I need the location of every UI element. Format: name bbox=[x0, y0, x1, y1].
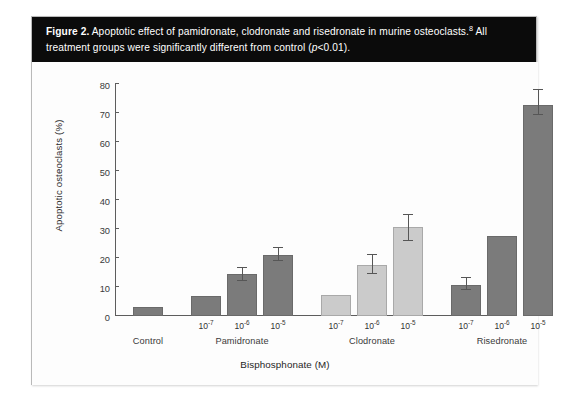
y-axis-tick: 0 bbox=[105, 307, 115, 325]
figure-label: Figure 2. bbox=[46, 26, 89, 37]
y-axis-tick-mark bbox=[115, 141, 119, 142]
error-bar-cap-bottom bbox=[461, 289, 471, 290]
y-axis-tick: 10 bbox=[100, 278, 115, 296]
error-bar-cap-bottom bbox=[367, 273, 377, 274]
y-axis-tick-label: 60 bbox=[100, 139, 115, 149]
error-bar-cap-top bbox=[461, 277, 471, 278]
y-axis-tick: 30 bbox=[100, 220, 115, 238]
y-axis-tick-label: 0 bbox=[105, 313, 115, 323]
y-axis-tick-mark bbox=[115, 286, 119, 287]
y-axis-title: Apoptotic osteoclasts (%) bbox=[53, 96, 64, 256]
chart-bar bbox=[263, 255, 293, 316]
y-axis-tick: 80 bbox=[100, 75, 115, 93]
error-bar-cap-bottom bbox=[237, 280, 247, 281]
y-axis-tick: 60 bbox=[100, 133, 115, 151]
x-axis-group-label: Risedronate bbox=[477, 336, 528, 346]
x-axis-concentration-label: 10-7 bbox=[198, 321, 213, 331]
error-bar-cap-bottom bbox=[273, 260, 283, 261]
y-axis-tick-label: 20 bbox=[100, 255, 115, 265]
y-axis-tick-label: 50 bbox=[100, 168, 115, 178]
x-axis-line bbox=[115, 315, 506, 316]
error-bar bbox=[372, 255, 373, 274]
error-bar-cap-top bbox=[367, 254, 377, 255]
chart-bar bbox=[487, 236, 517, 316]
y-axis-tick: 70 bbox=[100, 104, 115, 122]
y-axis-tick-mark bbox=[115, 315, 119, 316]
figure-caption: Figure 2. Apoptotic effect of pamidronat… bbox=[46, 24, 522, 55]
x-axis-concentration-label: 10-6 bbox=[234, 321, 249, 331]
error-bar-cap-top bbox=[273, 247, 283, 248]
y-axis-tick-mark bbox=[115, 112, 119, 113]
chart-canvas: 01020304050607080Control10-710-610-5Pami… bbox=[115, 84, 506, 316]
error-bar-cap-bottom bbox=[533, 114, 543, 115]
chart-bar bbox=[523, 105, 553, 316]
y-axis-tick-mark bbox=[115, 257, 119, 258]
x-axis-concentration-label: 10-5 bbox=[270, 321, 285, 331]
x-axis-group-label: Clodronate bbox=[349, 336, 395, 346]
y-axis-tick-mark bbox=[115, 83, 119, 84]
x-axis-concentration-label: 10-6 bbox=[494, 321, 509, 331]
chart-plot-area: Apoptotic osteoclasts (%) Bisphosphonate… bbox=[32, 62, 538, 385]
error-bar bbox=[408, 215, 409, 241]
y-axis-tick-label: 80 bbox=[100, 81, 115, 91]
y-axis-tick: 20 bbox=[100, 249, 115, 267]
chart-bar bbox=[321, 295, 351, 316]
y-axis-tick-mark bbox=[115, 199, 119, 200]
figure-card: Figure 2. Apoptotic effect of pamidronat… bbox=[31, 16, 537, 385]
x-axis-title: Bisphosphonate (M) bbox=[32, 359, 538, 370]
x-axis-concentration-label: 10-7 bbox=[458, 321, 473, 331]
y-axis-tick-mark bbox=[115, 228, 119, 229]
y-axis-tick-label: 10 bbox=[100, 284, 115, 294]
error-bar-cap-top bbox=[237, 267, 247, 268]
error-bar-cap-bottom bbox=[403, 240, 413, 241]
x-axis-group-label: Control bbox=[133, 336, 163, 346]
x-axis-group-label: Pamidronate bbox=[215, 336, 268, 346]
caption-sentence-3: <0.01). bbox=[318, 42, 351, 53]
y-axis-tick: 50 bbox=[100, 162, 115, 180]
caption-sentence-1: Apoptotic effect of pamidronate, clodron… bbox=[89, 26, 469, 37]
y-axis-tick: 40 bbox=[100, 191, 115, 209]
error-bar-cap-top bbox=[533, 89, 543, 90]
x-axis-concentration-label: 10-5 bbox=[400, 321, 415, 331]
error-bar-cap-top bbox=[403, 214, 413, 215]
figure-caption-band: Figure 2. Apoptotic effect of pamidronat… bbox=[32, 17, 536, 62]
x-axis-concentration-label: 10-6 bbox=[364, 321, 379, 331]
chart-bar bbox=[133, 307, 163, 316]
x-axis-concentration-label: 10-5 bbox=[530, 321, 545, 331]
y-axis-tick-label: 30 bbox=[100, 226, 115, 236]
y-axis-tick-label: 70 bbox=[100, 110, 115, 120]
x-axis-concentration-label: 10-7 bbox=[328, 321, 343, 331]
chart-bar bbox=[191, 296, 221, 316]
y-axis-tick-mark bbox=[115, 170, 119, 171]
y-axis-line bbox=[115, 84, 116, 316]
y-axis-tick-label: 40 bbox=[100, 197, 115, 207]
figure-screenshot: Figure 2. Apoptotic effect of pamidronat… bbox=[0, 0, 571, 403]
error-bar bbox=[538, 90, 539, 115]
